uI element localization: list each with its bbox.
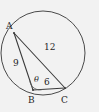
vertex-label-b: B <box>28 96 35 105</box>
vertex-label-a: A <box>6 22 13 31</box>
side-length-bc: 6 <box>44 78 50 87</box>
circumcircle <box>1 11 85 95</box>
diagram-canvas <box>0 0 99 112</box>
segment-ac <box>14 33 65 88</box>
vertex-dot-b <box>32 89 34 91</box>
side-length-ac: 12 <box>44 43 55 52</box>
angle-label-theta: θ <box>34 76 39 84</box>
vertex-dot-a <box>13 32 15 34</box>
vertex-label-c: C <box>61 96 68 105</box>
vertex-dot-c <box>64 87 66 89</box>
geometry-figure: A B C 9 12 6 θ <box>0 0 99 112</box>
side-length-ab: 9 <box>13 59 19 68</box>
